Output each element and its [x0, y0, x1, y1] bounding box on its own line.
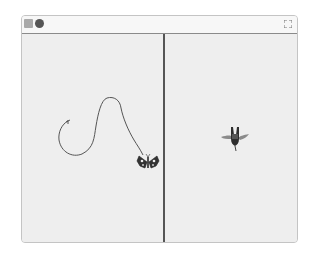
butterfly-sprite[interactable]	[22, 34, 163, 243]
fullscreen-icon[interactable]	[284, 20, 292, 28]
project-player-window	[21, 15, 298, 243]
hummingbird-sprite[interactable]	[165, 34, 298, 243]
left-stage[interactable]	[22, 34, 163, 242]
player-toolbar	[22, 16, 297, 34]
stop-icon[interactable]	[35, 19, 44, 28]
green-flag-icon[interactable]	[24, 19, 33, 28]
right-stage[interactable]	[165, 34, 297, 242]
